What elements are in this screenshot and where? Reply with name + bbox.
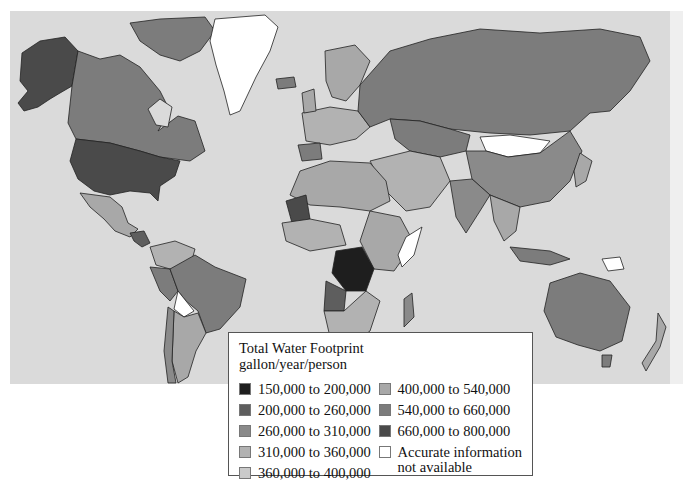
legend-label: Accurate information not available [398, 445, 526, 475]
page-edge [670, 11, 683, 384]
legend-label: 400,000 to 540,000 [398, 382, 511, 397]
region-alaska [18, 37, 78, 111]
legend-swatch [239, 446, 251, 458]
legend-label: 150,000 to 200,000 [258, 382, 371, 397]
map-legend: Total Water Footprint gallon/year/person… [228, 332, 533, 476]
region-papua-new-guinea [602, 257, 624, 271]
region-central-america [130, 231, 150, 247]
legend-item: 260,000 to 310,000 [239, 424, 379, 445]
choropleth-map [10, 11, 670, 384]
legend-title: Total Water Footprint [239, 340, 532, 356]
legend-swatch [379, 446, 391, 458]
region-madagascar [404, 293, 414, 327]
region-west-africa [282, 219, 346, 251]
legend-swatch [239, 383, 251, 395]
legend-item: 540,000 to 660,000 [379, 403, 526, 424]
legend-item: 400,000 to 540,000 [379, 382, 526, 403]
region-russia [358, 29, 650, 135]
region-greenland [210, 15, 278, 115]
region-argentina [172, 311, 206, 383]
legend-swatch [379, 383, 391, 395]
legend-label: 660,000 to 800,000 [398, 424, 511, 439]
legend-swatch [239, 467, 251, 479]
region-canada-arctic-islands [130, 17, 215, 61]
region-australia [544, 273, 630, 351]
world-map [10, 11, 670, 384]
region-iberia [298, 143, 322, 161]
legend-item: 660,000 to 800,000 [379, 424, 526, 445]
region-uk [302, 89, 316, 113]
legend-swatch [379, 425, 391, 437]
legend-item: 150,000 to 200,000 [239, 382, 379, 403]
region-indonesia [510, 247, 570, 265]
legend-item: 360,000 to 400,000 [239, 466, 379, 487]
region-mexico [80, 193, 138, 237]
region-tasmania [602, 355, 612, 367]
legend-item: 310,000 to 360,000 [239, 445, 379, 466]
legend-swatch [239, 425, 251, 437]
legend-swatch [239, 404, 251, 416]
legend-label: 540,000 to 660,000 [398, 403, 511, 418]
region-mauritania [286, 195, 310, 223]
region-iceland [276, 77, 296, 89]
legend-label: 200,000 to 260,000 [258, 403, 371, 418]
legend-units: gallon/year/person [239, 356, 532, 372]
region-new-zealand [642, 313, 666, 371]
legend-label: 260,000 to 310,000 [258, 424, 371, 439]
legend-item: Accurate information not available [379, 445, 526, 485]
legend-swatch [379, 404, 391, 416]
legend-label: 310,000 to 360,000 [258, 445, 371, 460]
legend-item: 200,000 to 260,000 [239, 403, 379, 424]
legend-label: 360,000 to 400,000 [258, 466, 371, 481]
